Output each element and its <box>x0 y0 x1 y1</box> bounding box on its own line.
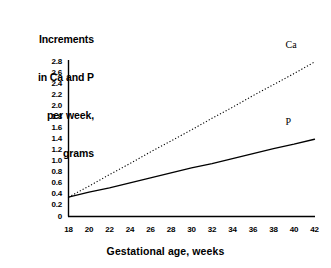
chart-figure: Increments in Ca and P per week, grams 0… <box>0 0 331 268</box>
series-label-p: P <box>286 117 292 127</box>
x-axis-label: Gestational age, weeks <box>0 245 331 257</box>
series-label-ca: Ca <box>286 40 298 50</box>
series-labels: CaP <box>0 0 331 268</box>
